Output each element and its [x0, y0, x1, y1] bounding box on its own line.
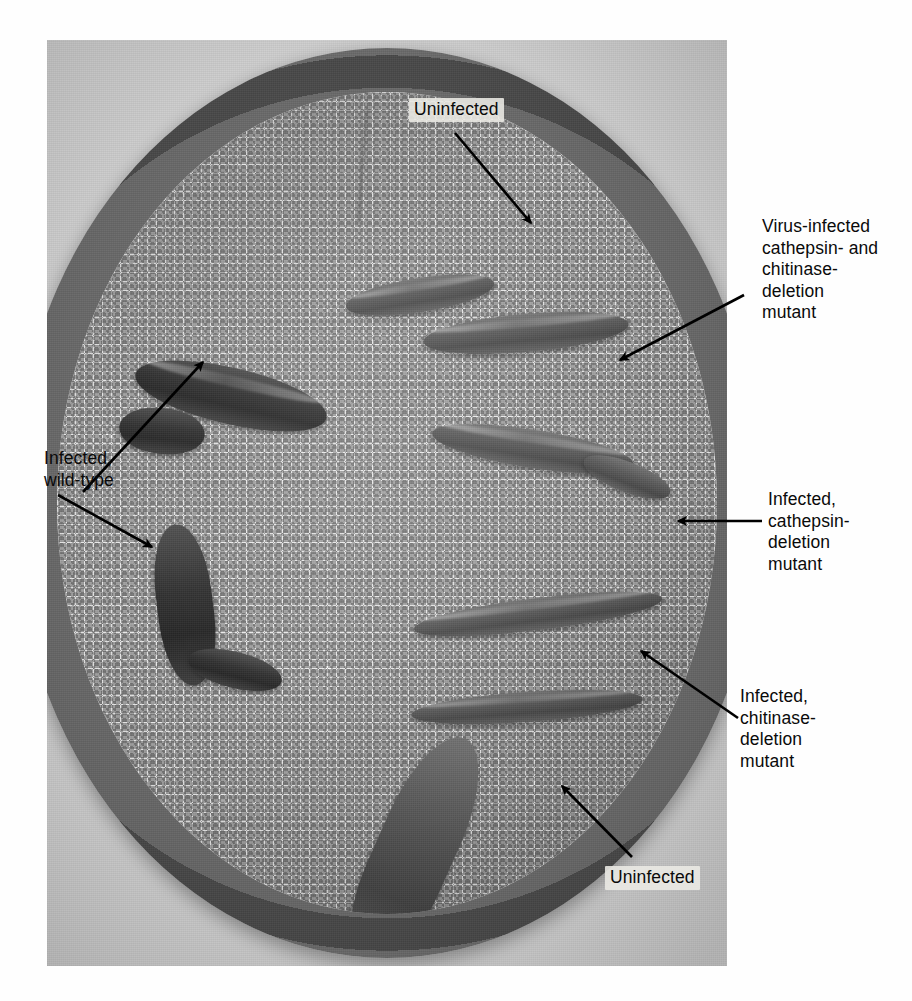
dish-interior: [57, 92, 717, 914]
petri-dish-photograph: [47, 40, 727, 966]
label-infected-cathepsin-mutant: Infected, cathepsin- deletion mutant: [768, 489, 850, 575]
label-infected-chitinase-mutant: Infected, chitinase- deletion mutant: [740, 686, 816, 772]
petri-dish: [47, 48, 727, 966]
diet-texture-fine: [57, 92, 717, 914]
figure-container: Uninfected Virus-infected cathepsin- and…: [0, 0, 912, 1001]
label-virus-infected-double-mutant: Virus-infected cathepsin- and chitinase-…: [762, 216, 878, 324]
